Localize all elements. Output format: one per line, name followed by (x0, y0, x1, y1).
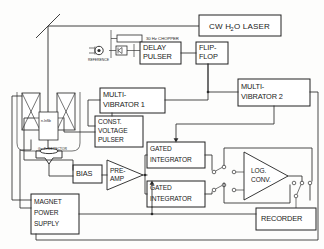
magnet-cryostat-assembly: n-InSb (17, 92, 80, 151)
preamp-label-line1: PRE- (110, 167, 125, 174)
recorder-block[interactable]: RECORDER (256, 208, 316, 230)
const-voltage-pulser-block[interactable]: CONST. VOLTAGE PULSER (95, 116, 143, 147)
diode-symbol (109, 46, 134, 55)
output-switch-throw-3-icon[interactable] (308, 181, 312, 185)
switch-bank-right[interactable] (292, 181, 312, 208)
switch-lower-pole-icon[interactable] (212, 188, 216, 192)
multivibrator-1-label-line1: MULTI- (103, 90, 127, 99)
reference-block[interactable]: REFERENCE (88, 46, 110, 62)
wire-logconv-out (288, 176, 302, 181)
log-converter-block[interactable]: LOG. CONV. (244, 152, 288, 200)
magnet-power-supply-label-line2: POWER (34, 209, 59, 216)
switch-upper-throw-a-icon[interactable] (222, 165, 226, 169)
gated-integrator-1-label-line1: GATED (150, 145, 172, 152)
chopper-box (117, 35, 142, 42)
junction-flipflop-branch (207, 91, 210, 94)
output-switch-pole-icon[interactable] (294, 194, 298, 198)
multivibrator-1-label-line2: VIBRATOR 1 (103, 100, 145, 109)
delay-pulser-label-line2: PULSER (143, 52, 172, 61)
laser-block[interactable]: CW H 2 O LASER (199, 15, 281, 36)
figure-canvas: CW H 2 O LASER 30 Hz CHOPPER REFERENCE (0, 0, 324, 249)
output-switch-throw-1-icon[interactable] (292, 181, 296, 185)
multivibrator-2-label-line2: VIBRATOR 2 (241, 92, 283, 101)
wire-mv2-gate-to-gi1 (176, 106, 274, 140)
switch-upper-throw-b-icon[interactable] (232, 170, 236, 174)
preamp-label-line2: AMP (110, 175, 125, 182)
magnet-power-supply-label-line1: MAGNET (34, 198, 62, 205)
log-converter-label-line2: CONV. (251, 176, 271, 183)
reference-leads (89, 47, 95, 55)
log-converter-label-line1: LOG. (251, 167, 267, 174)
recorder-label: RECORDER (261, 214, 302, 223)
switch-lower-throw-b-icon[interactable] (232, 188, 236, 192)
sample-label: n-InSb (41, 119, 51, 123)
gated-integrator-2-label-line2: INTEGRATOR (150, 195, 192, 202)
reference-label: REFERENCE (88, 58, 110, 62)
reference-sensor-dot-icon (97, 49, 100, 52)
flip-flop-label-line1: FLIP- (199, 43, 217, 52)
gated-integrator-1-label-line2: INTEGRATOR (150, 156, 192, 163)
output-switch-throw-2-icon[interactable] (300, 181, 304, 185)
sample-holder-box (39, 112, 58, 140)
delay-pulser-label-line1: DELAY (143, 43, 166, 52)
gated-integrator-2-block[interactable]: GATED INTEGRATOR (147, 181, 205, 207)
switch-bank-left[interactable] (212, 165, 244, 192)
bias-label: BIAS (76, 169, 92, 178)
laser-label-suffix: O LASER (234, 22, 270, 31)
delay-pulser-block[interactable]: DELAY PULSER (134, 42, 181, 64)
preamp-block[interactable]: PRE- AMP (102, 160, 143, 190)
output-switch-blade (297, 185, 301, 195)
multivibrator-2-block[interactable]: MULTI- VIBRATOR 2 (238, 79, 310, 106)
wire-gi2-to-switch (205, 192, 212, 194)
wire-detector-to-bias (49, 164, 73, 176)
detector-label: Ge:Zn DETECTOR (38, 147, 68, 151)
switch-upper-blade (216, 168, 223, 172)
const-voltage-pulser-label-line3: PULSER (98, 136, 124, 143)
const-voltage-pulser-label-line2: VOLTAGE (98, 127, 128, 134)
detector-block[interactable]: Ge:Zn DETECTOR (36, 147, 68, 164)
apparatus-block-diagram: CW H 2 O LASER 30 Hz CHOPPER REFERENCE (0, 0, 324, 249)
magnet-power-supply-block[interactable]: MAGNET POWER SUPPLY (31, 194, 79, 234)
switch-lower-blade (216, 186, 223, 190)
wire-mps-return (20, 140, 31, 208)
wire-gi1-to-switch (205, 155, 212, 170)
multivibrator-2-label-line1: MULTI- (241, 82, 265, 91)
chopper-label: 30 Hz CHOPPER (146, 36, 179, 41)
gated-integrator-1-block[interactable]: GATED INTEGRATOR (147, 142, 205, 168)
wire-flipflop-to-mv1 (165, 64, 208, 100)
multivibrator-1-block[interactable]: MULTI- VIBRATOR 1 (100, 88, 165, 113)
wire-flipflop-to-mv2 (208, 64, 238, 92)
delay-pulser-input-wire (134, 44, 140, 57)
magnet-power-supply-label-line3: SUPPLY (34, 220, 60, 227)
bias-block[interactable]: BIAS (73, 165, 102, 183)
const-voltage-pulser-label-line1: CONST. (98, 118, 122, 125)
flip-flop-label-line2: FLOP (199, 52, 218, 61)
laser-label: CW H (209, 22, 231, 31)
flip-flop-block[interactable]: FLIP- FLOP (181, 42, 228, 64)
switch-upper-pole-icon[interactable] (212, 170, 216, 174)
